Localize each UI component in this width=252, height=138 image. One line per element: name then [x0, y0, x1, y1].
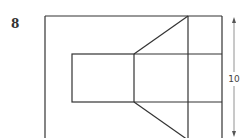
lower-diagonal	[134, 102, 188, 138]
diagram-lines	[45, 16, 222, 138]
arrow-up-icon	[232, 17, 236, 23]
net-diagram: 10	[0, 0, 252, 138]
upper-diagonal	[134, 16, 188, 54]
arrow-down-icon	[232, 131, 236, 137]
dimension-label: 10	[228, 74, 240, 84]
inner-rectangle	[72, 54, 134, 102]
